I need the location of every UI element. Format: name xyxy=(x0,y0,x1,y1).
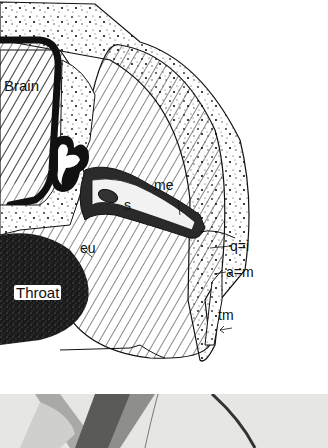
label-tm: tm xyxy=(218,308,234,322)
label-eu: eu xyxy=(80,241,96,255)
label-me: me xyxy=(154,178,173,192)
label-s: s xyxy=(124,198,131,212)
diagram-artwork xyxy=(0,0,328,390)
micrograph-photo-strip xyxy=(0,394,328,448)
brain-region xyxy=(0,40,55,185)
label-brain: Brain xyxy=(4,78,39,93)
label-q-equals-i: q=i xyxy=(230,239,249,253)
label-throat: Throat xyxy=(14,285,61,300)
label-a-equals-m: a=m xyxy=(226,265,254,279)
ear-cross-section-diagram: Brain Throat me s eu q=i a=m tm xyxy=(0,0,328,390)
photo-artwork xyxy=(0,394,328,448)
